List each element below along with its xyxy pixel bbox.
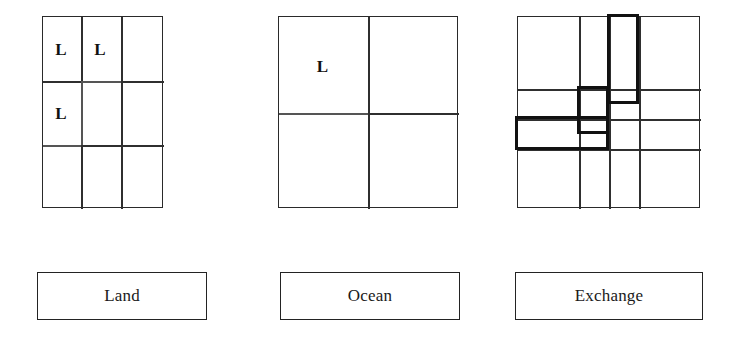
land-region-edge-horizontal-bottom	[43, 145, 81, 147]
land-marker-r1c2: L	[80, 41, 120, 58]
ocean-grid	[278, 16, 458, 208]
ocean-region-edge-horizontal	[279, 113, 368, 115]
exchange-highlight-wide-rect	[515, 116, 609, 150]
exchange-highlight-tall-rect	[607, 14, 639, 104]
legend-box-ocean: Ocean	[280, 272, 460, 320]
legend-label-ocean: Ocean	[348, 286, 392, 306]
land-marker-r1c1: L	[42, 41, 80, 58]
exchange-grid-vline-3	[639, 17, 641, 209]
legend-label-land: Land	[104, 286, 140, 306]
ocean-marker-r1c1: L	[278, 58, 367, 75]
land-region-edge-vertical	[81, 81, 83, 145]
legend-box-land: Land	[37, 272, 207, 320]
land-region-edge-horizontal-top	[81, 81, 121, 83]
land-marker-r2c1: L	[42, 105, 80, 122]
legend-box-exchange: Exchange	[515, 272, 703, 320]
legend-label-exchange: Exchange	[575, 286, 644, 306]
land-grid-vline-2	[121, 17, 123, 209]
